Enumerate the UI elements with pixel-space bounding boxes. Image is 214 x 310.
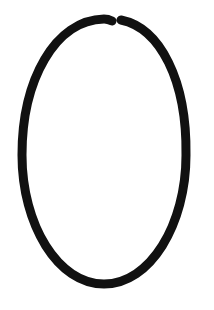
drawing-canvas — [0, 0, 214, 310]
open-ellipse-stroke — [22, 19, 186, 284]
loop-drawing — [0, 0, 214, 310]
